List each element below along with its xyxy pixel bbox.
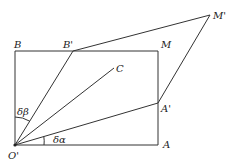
angle-arc-beta [15, 117, 30, 121]
label-aprime: A' [160, 103, 171, 114]
label-m: M [160, 39, 172, 50]
label-mprime: M' [212, 10, 226, 21]
label-a: A [162, 139, 170, 150]
label-angle-alpha: δα [53, 134, 66, 145]
label-o: O' [8, 150, 19, 161]
label-b: B [13, 39, 21, 50]
deformation-diagram: O' A M B B' A' M' C δα δβ [0, 0, 237, 167]
label-c: C [116, 63, 124, 74]
origin-point [13, 143, 16, 146]
label-angle-beta: δβ [17, 106, 29, 117]
segment-bprime-mprime [73, 15, 210, 51]
label-bprime: B' [62, 39, 73, 50]
segment-aprime-mprime [158, 15, 210, 103]
